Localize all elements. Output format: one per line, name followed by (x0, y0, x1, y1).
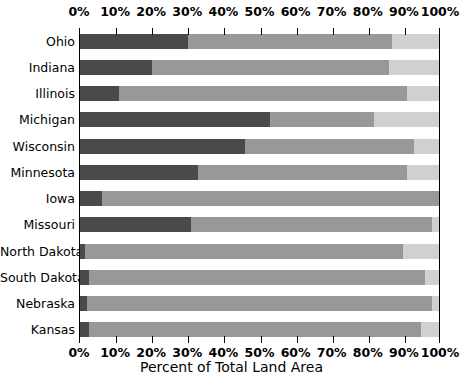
category-label: Missouri (0, 217, 75, 232)
x-tick-label-top: 50% (245, 4, 275, 20)
category-label: Iowa (0, 191, 75, 206)
bar-segment-1 (80, 165, 198, 180)
bar-segment-3 (407, 86, 439, 101)
bar-segment-2 (119, 86, 406, 101)
tick-mark (369, 336, 370, 343)
bar-row (80, 270, 439, 285)
bar-segment-2 (85, 244, 403, 259)
x-tick-label-top: 90% (389, 4, 419, 20)
bar-segment-2 (188, 34, 393, 49)
tick-mark (261, 336, 262, 343)
x-tick-label-top: 20% (136, 4, 166, 20)
bar-row (80, 86, 439, 101)
bar-row (80, 244, 439, 259)
x-tick-label-top: 60% (281, 4, 311, 20)
bar-row (80, 112, 439, 127)
bar-segment-1 (80, 322, 89, 337)
tick-mark (188, 336, 189, 343)
x-tick-label-top: 0% (68, 4, 89, 20)
bar-segment-3 (425, 270, 439, 285)
tick-mark (405, 28, 406, 35)
bar-segment-3 (414, 139, 439, 154)
tick-mark (152, 336, 153, 343)
bar-segment-3 (389, 60, 439, 75)
bar-segment-2 (89, 322, 421, 337)
category-label: Wisconsin (0, 139, 75, 154)
tick-mark (224, 28, 225, 35)
tick-mark (297, 336, 298, 343)
bar-row (80, 139, 439, 154)
x-tick-label-top: 30% (172, 4, 202, 20)
x-tick-label-top: 10% (100, 4, 130, 20)
x-tick-label-top: 40% (208, 4, 238, 20)
bar-segment-2 (245, 139, 414, 154)
tick-mark (333, 336, 334, 343)
tick-mark (116, 336, 117, 343)
bar-segment-3 (432, 217, 439, 232)
x-tick-label-top: 100% (421, 4, 460, 20)
category-label: Indiana (0, 60, 75, 75)
x-tick-label-top: 80% (353, 4, 383, 20)
bar-segment-1 (80, 60, 152, 75)
category-label: Nebraska (0, 296, 75, 311)
bar-segment-2 (87, 296, 432, 311)
x-axis-top-tick-labels: 0%10%20%30%40%50%60%70%80%90%100% (0, 4, 463, 20)
bar-row (80, 60, 439, 75)
bar-row (80, 191, 439, 206)
bar-segment-1 (80, 296, 87, 311)
bar-segment-3 (407, 165, 439, 180)
plot-area (79, 28, 440, 343)
x-axis-title: Percent of Total Land Area (0, 359, 463, 375)
tick-mark (261, 28, 262, 35)
x-tick-label-top: 70% (317, 4, 347, 20)
category-label: North Dakota (0, 244, 75, 259)
category-label: Kansas (0, 322, 75, 337)
bar-segment-2 (198, 165, 406, 180)
bar-segment-2 (152, 60, 389, 75)
tick-mark (405, 336, 406, 343)
bar-segment-3 (421, 322, 439, 337)
bar-segment-1 (80, 270, 89, 285)
bar-row (80, 34, 439, 49)
bar-segment-3 (374, 112, 439, 127)
bar-row (80, 165, 439, 180)
bar-segment-3 (403, 244, 439, 259)
bar-segment-1 (80, 34, 188, 49)
bar-segment-3 (432, 296, 439, 311)
tick-mark (297, 28, 298, 35)
bar-rows-container (80, 28, 439, 343)
tick-mark (369, 28, 370, 35)
bar-segment-1 (80, 86, 119, 101)
tick-mark (333, 28, 334, 35)
tick-mark (224, 336, 225, 343)
bar-segment-1 (80, 112, 270, 127)
stacked-bar-chart: 0%10%20%30%40%50%60%70%80%90%100% OhioIn… (0, 0, 463, 375)
bar-row (80, 217, 439, 232)
bar-segment-1 (80, 191, 102, 206)
category-label: South Dakota (0, 270, 75, 285)
bar-row (80, 296, 439, 311)
bar-segment-1 (80, 139, 245, 154)
tick-mark (116, 28, 117, 35)
category-label: Minnesota (0, 165, 75, 180)
bar-segment-3 (392, 34, 439, 49)
bar-segment-2 (191, 217, 432, 232)
bar-segment-1 (80, 217, 191, 232)
y-axis-category-labels: OhioIndianaIllinoisMichiganWisconsinMinn… (0, 28, 75, 343)
category-label: Illinois (0, 86, 75, 101)
bar-segment-2 (102, 191, 439, 206)
category-label: Ohio (0, 34, 75, 49)
tick-mark (188, 28, 189, 35)
bar-segment-2 (270, 112, 374, 127)
category-label: Michigan (0, 112, 75, 127)
bar-segment-2 (89, 270, 425, 285)
bar-row (80, 322, 439, 337)
tick-mark (152, 28, 153, 35)
